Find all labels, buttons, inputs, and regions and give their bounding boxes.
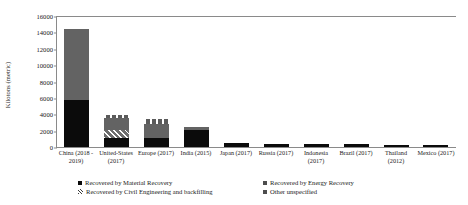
x-tick-label: Japan (2017) bbox=[217, 149, 255, 173]
stacked-bar[interactable] bbox=[184, 127, 209, 147]
bar-segment bbox=[423, 145, 448, 147]
bar-segment bbox=[64, 100, 89, 147]
bar-segment bbox=[224, 143, 249, 147]
civil-hatch-icon bbox=[78, 189, 83, 194]
legend-label: Recovered by Energy Recovery bbox=[270, 178, 354, 187]
stacked-bar[interactable] bbox=[384, 145, 409, 147]
chart-legend: Recovered by Material RecoveryRecovered … bbox=[78, 178, 448, 196]
bar-segment bbox=[344, 144, 369, 147]
stacked-bar-chart: Kilotons (metric) 0200040006000800010000… bbox=[0, 0, 468, 205]
y-tick-label: 4000 bbox=[7, 112, 57, 119]
stacked-bar[interactable] bbox=[344, 144, 369, 147]
bar-slot bbox=[101, 17, 133, 147]
legend-item[interactable]: Recovered by Civil Engineering and backf… bbox=[78, 187, 263, 196]
bar-segment bbox=[104, 118, 129, 130]
y-tick-label: 2000 bbox=[7, 128, 57, 135]
bar-segment bbox=[144, 124, 169, 138]
x-axis-labels: China (2018 - 2019)United-States (2017)E… bbox=[56, 149, 456, 173]
x-tick-label: Thailand (2012) bbox=[377, 149, 415, 173]
legend-item[interactable]: Recovered by Energy Recovery bbox=[263, 178, 448, 187]
bar-slot bbox=[340, 17, 372, 147]
y-tick-label: 16000 bbox=[7, 14, 57, 21]
bar-segment bbox=[384, 145, 409, 147]
x-tick-label: Europe (2017) bbox=[137, 149, 175, 173]
bar-slot bbox=[221, 17, 253, 147]
y-tick-label: 12000 bbox=[7, 46, 57, 53]
legend-item[interactable]: Other unspecified bbox=[263, 187, 448, 196]
bar-segment bbox=[144, 138, 169, 147]
energy-icon bbox=[263, 181, 267, 185]
bar-slot bbox=[141, 17, 173, 147]
bar-segment bbox=[184, 130, 209, 147]
x-tick-label: Brazil (2017) bbox=[337, 149, 375, 173]
bar-slot bbox=[380, 17, 412, 147]
material-icon bbox=[78, 181, 82, 185]
bar-slot bbox=[420, 17, 452, 147]
x-tick-label: Indonesia (2017) bbox=[297, 149, 335, 173]
y-axis-label: Kilotons (metric) bbox=[4, 0, 11, 50]
bar-slot bbox=[300, 17, 332, 147]
y-tick-label: 0 bbox=[7, 145, 57, 152]
other-icon bbox=[263, 190, 267, 194]
bar-segment bbox=[64, 29, 89, 99]
legend-label: Recovered by Civil Engineering and backf… bbox=[86, 187, 213, 196]
stacked-bar[interactable] bbox=[144, 119, 169, 147]
stacked-bar[interactable] bbox=[423, 145, 448, 147]
x-tick-label: Russia (2017) bbox=[257, 149, 295, 173]
bar-slot bbox=[61, 17, 93, 147]
bar-segment bbox=[304, 144, 329, 147]
y-tick-label: 8000 bbox=[7, 79, 57, 86]
plot-area: 0200040006000800010000120001400016000 bbox=[56, 16, 456, 147]
x-tick-label: China (2018 - 2019) bbox=[57, 149, 95, 173]
x-tick-label: United-States (2017) bbox=[97, 149, 135, 173]
x-tick-label: Mexico (2017) bbox=[417, 149, 455, 173]
legend-item[interactable]: Recovered by Material Recovery bbox=[78, 178, 263, 187]
y-tick-label: 14000 bbox=[7, 30, 57, 37]
stacked-bar[interactable] bbox=[304, 144, 329, 147]
bar-segment bbox=[104, 138, 129, 147]
stacked-bar[interactable] bbox=[224, 143, 249, 147]
bar-group bbox=[57, 17, 456, 147]
stacked-bar[interactable] bbox=[104, 115, 129, 147]
y-tick-label: 10000 bbox=[7, 63, 57, 70]
bar-slot bbox=[181, 17, 213, 147]
x-axis-line bbox=[56, 147, 456, 148]
x-tick-label: India (2015) bbox=[177, 149, 215, 173]
bar-segment bbox=[104, 130, 129, 137]
y-tick-label: 6000 bbox=[7, 96, 57, 103]
bar-slot bbox=[260, 17, 292, 147]
stacked-bar[interactable] bbox=[64, 29, 89, 147]
stacked-bar[interactable] bbox=[264, 144, 289, 147]
legend-label: Recovered by Material Recovery bbox=[85, 178, 172, 187]
legend-label: Other unspecified bbox=[270, 187, 317, 196]
bar-segment bbox=[264, 144, 289, 147]
